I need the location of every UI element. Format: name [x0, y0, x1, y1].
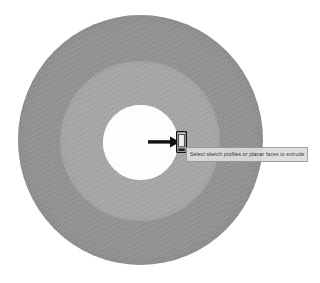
- command-prompt-tooltip: Select sketch profiles or planar faces t…: [186, 147, 308, 162]
- command-prompt-text: Select sketch profiles or planar faces t…: [190, 152, 304, 157]
- screenshot-root: Select sketch profiles or planar faces t…: [0, 0, 320, 283]
- cad-3d-viewport[interactable]: Select sketch profiles or planar faces t…: [0, 0, 320, 283]
